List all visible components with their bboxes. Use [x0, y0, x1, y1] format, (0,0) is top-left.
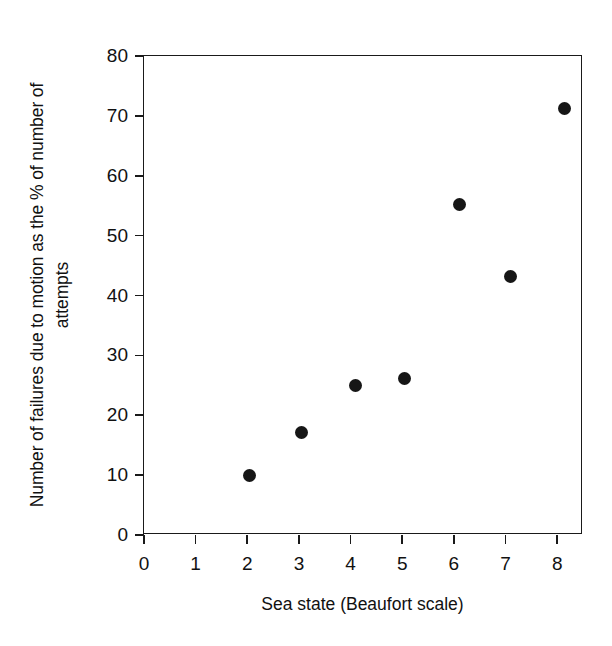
x-tick-mark — [246, 535, 248, 544]
data-point — [453, 198, 466, 211]
x-tick-mark — [350, 535, 352, 544]
x-tick-mark — [143, 535, 145, 544]
y-tick-label: 70 — [68, 103, 128, 129]
x-tick-mark — [556, 535, 558, 544]
y-tick-label: 50 — [68, 223, 128, 249]
plot-area: 01020304050607080 012345678 — [143, 55, 582, 534]
x-tick-mark — [298, 535, 300, 544]
x-tick-label: 8 — [527, 551, 587, 577]
x-tick-mark — [195, 535, 197, 544]
data-point — [349, 379, 362, 392]
y-tick-label: 80 — [68, 43, 128, 69]
y-tick-label: 40 — [68, 283, 128, 309]
x-tick-mark — [505, 535, 507, 544]
x-tick-mark — [401, 535, 403, 544]
y-tick-label: 60 — [68, 163, 128, 189]
data-point — [243, 469, 256, 482]
y-tick-mark — [135, 175, 144, 177]
y-tick-label: 30 — [68, 342, 128, 368]
data-point — [295, 426, 308, 439]
y-tick-mark — [135, 355, 144, 357]
data-point — [504, 270, 517, 283]
scatter-chart-figure: Number of failures due to motion as the … — [0, 0, 612, 646]
data-point — [558, 102, 571, 115]
y-tick-mark — [135, 235, 144, 237]
y-tick-mark — [135, 55, 144, 57]
y-tick-mark — [135, 414, 144, 416]
x-axis-title: Sea state (Beaufort scale) — [143, 592, 582, 616]
y-tick-mark — [135, 115, 144, 117]
y-tick-label: 10 — [68, 462, 128, 488]
x-tick-mark — [453, 535, 455, 544]
y-tick-label: 20 — [68, 402, 128, 428]
y-tick-mark — [135, 474, 144, 476]
y-tick-label: 0 — [68, 522, 128, 548]
data-point — [398, 372, 411, 385]
y-tick-mark — [135, 295, 144, 297]
